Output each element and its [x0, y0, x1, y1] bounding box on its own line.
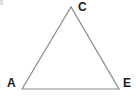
vertex-label-a: A [7, 77, 16, 89]
triangle-shape [0, 0, 136, 102]
vertex-label-c: C [78, 1, 87, 13]
triangle-outline [22, 7, 119, 89]
vertex-label-e: E [123, 77, 131, 89]
figure-canvas: C A E [0, 0, 136, 102]
